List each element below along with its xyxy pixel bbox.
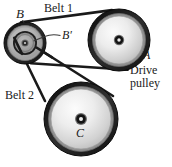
drive-pulley-caption-line1: Drive	[130, 64, 160, 77]
pulley-b-label: B	[16, 7, 24, 21]
pulley-c	[44, 82, 118, 156]
belt-2-label: Belt 2	[5, 89, 34, 102]
drive-pulley-caption: Drive pulley	[130, 64, 160, 89]
belt-1-label: Belt 1	[44, 2, 73, 15]
pulley-a-label: A	[143, 49, 150, 62]
pulley-b-prime-label: B′	[62, 29, 72, 42]
pulley-c-label: C	[76, 127, 84, 140]
drive-pulley-caption-line2: pulley	[130, 77, 160, 90]
pulley-system-figure: Belt 1 Belt 2 B B′ A Drive pulley C	[0, 0, 172, 167]
pulley-a	[88, 9, 150, 71]
